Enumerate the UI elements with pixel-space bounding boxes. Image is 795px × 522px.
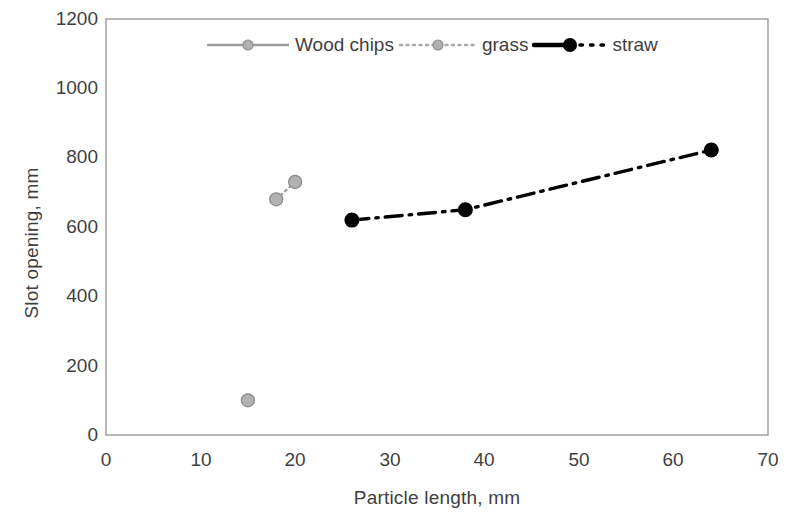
legend-item-wood-chips[interactable]: Wood chips <box>205 34 398 56</box>
legend-label-grass: grass <box>478 34 532 56</box>
legend-line-straw <box>532 36 608 54</box>
plot-frame <box>106 19 768 435</box>
legend-line-wood-chips <box>205 36 291 54</box>
data-point-markers <box>241 143 718 407</box>
legend-label-straw: straw <box>608 34 661 56</box>
chart-container: Slot opening, mm Particle length, mm 120… <box>0 0 795 522</box>
legend-swatch-grass <box>398 36 478 54</box>
data-point-straw-2 <box>704 143 719 158</box>
legend-marker-straw <box>563 38 577 52</box>
data-point-wood-chips-0 <box>241 394 254 407</box>
chart-legend: Wood chips grass straw <box>205 30 665 60</box>
legend-line-grass <box>398 36 478 54</box>
legend-swatch-wood-chips <box>205 36 291 54</box>
legend-marker-wood-chips <box>243 40 253 50</box>
data-point-grass-1 <box>289 175 302 188</box>
series-line-straw <box>352 150 711 220</box>
legend-swatch-straw <box>532 36 608 54</box>
data-point-straw-1 <box>458 202 473 217</box>
data-point-straw-0 <box>344 213 359 228</box>
data-point-grass-0 <box>270 193 283 206</box>
legend-item-grass[interactable]: grass <box>398 34 532 56</box>
plot-area <box>0 0 795 522</box>
legend-marker-grass <box>433 40 443 50</box>
legend-label-wood-chips: Wood chips <box>291 34 398 56</box>
legend-item-straw[interactable]: straw <box>532 34 661 56</box>
